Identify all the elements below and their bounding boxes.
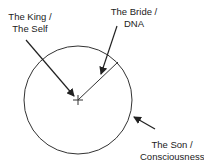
son-label-line2: Consciousness <box>140 151 204 163</box>
bride-label-line2: DNA <box>106 18 162 30</box>
radius-line <box>78 62 118 100</box>
king-arrow-icon <box>26 40 74 96</box>
son-label-line1: The Son / <box>140 139 204 151</box>
bride-label: The Bride / DNA <box>106 6 162 30</box>
son-arrow-icon <box>134 117 155 129</box>
bride-label-line1: The Bride / <box>106 6 162 18</box>
bride-arrow-icon <box>101 26 117 74</box>
king-label-line2: The Self <box>2 23 58 35</box>
king-label-line1: The King / <box>2 11 58 23</box>
son-label: The Son / Consciousness <box>140 139 204 163</box>
king-label: The King / The Self <box>2 11 58 35</box>
